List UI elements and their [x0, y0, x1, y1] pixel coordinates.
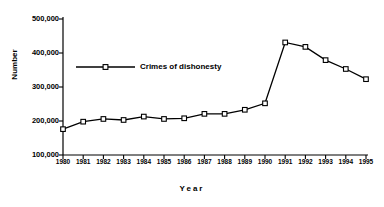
data-point-marker [182, 116, 187, 121]
data-point-marker [202, 112, 207, 117]
data-point-marker [222, 112, 227, 117]
data-point-marker [81, 119, 86, 124]
x-tick-label: 1995 [353, 158, 379, 166]
axis-lines [63, 17, 368, 155]
data-point-marker [101, 117, 106, 122]
series-crimes-of-dishonesty [61, 40, 369, 131]
x-axis-title: Year [0, 184, 384, 193]
data-point-marker [162, 117, 167, 122]
data-point-marker [61, 127, 66, 132]
data-point-marker [121, 118, 126, 123]
legend-sample-line [76, 65, 135, 70]
line-chart: Number 500,000 400,000 300,000 200,000 1… [0, 0, 384, 207]
data-point-marker [323, 58, 328, 63]
data-point-marker [344, 67, 349, 72]
data-point-marker [283, 40, 288, 45]
data-point-marker [263, 101, 268, 106]
data-point-marker [243, 107, 248, 112]
legend-label-crimes-of-dishonesty: Crimes of dishonesty [140, 62, 221, 71]
data-point-marker [303, 45, 308, 50]
data-point-marker [142, 114, 147, 119]
plot-area [0, 0, 384, 207]
data-point-marker [364, 77, 369, 82]
